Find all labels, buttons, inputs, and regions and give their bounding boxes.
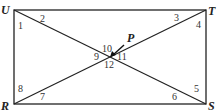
angle-label-9: 9 xyxy=(94,51,99,62)
vertex-label-t: T xyxy=(208,4,216,18)
intersection-label-p: P xyxy=(127,31,135,45)
vertex-label-r: R xyxy=(0,99,9,111)
angle-label-11: 11 xyxy=(117,51,127,62)
angle-label-5: 5 xyxy=(194,83,199,94)
vertex-label-s: S xyxy=(208,99,215,111)
angle-label-7: 7 xyxy=(40,91,45,102)
angle-label-6: 6 xyxy=(172,91,177,102)
angle-label-3: 3 xyxy=(174,12,179,23)
angle-label-4: 4 xyxy=(196,19,201,30)
angle-label-1: 1 xyxy=(18,20,23,31)
angle-label-2: 2 xyxy=(40,13,45,24)
vertex-label-u: U xyxy=(1,3,11,17)
angle-label-8: 8 xyxy=(18,83,23,94)
rectangle-diagram: U T S R P 1 2 3 4 5 6 7 8 9 10 11 12 xyxy=(0,0,218,111)
angle-label-12: 12 xyxy=(104,59,114,70)
angle-label-10: 10 xyxy=(102,43,112,54)
